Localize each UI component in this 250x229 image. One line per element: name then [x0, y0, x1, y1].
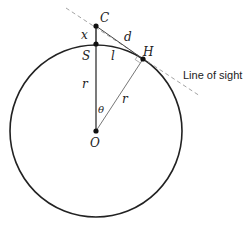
- label-l: l: [111, 49, 115, 63]
- label-C: C: [100, 11, 109, 25]
- label-x: x: [81, 28, 88, 42]
- label-theta: θ: [98, 104, 104, 115]
- label-r-vertical: r: [82, 77, 89, 91]
- horizon-diagram: C x d S l H r θ r O Line of sight: [0, 0, 250, 229]
- label-S: S: [82, 49, 90, 63]
- label-r-slant: r: [122, 92, 129, 106]
- point-S: [93, 41, 98, 46]
- line-of-sight-label: Line of sight: [183, 69, 242, 81]
- point-C: [93, 23, 98, 28]
- label-d: d: [124, 30, 132, 44]
- segment-r-slant: [96, 59, 143, 131]
- label-O: O: [90, 136, 100, 150]
- label-H: H: [142, 45, 154, 59]
- segment-d: [96, 26, 143, 59]
- point-O: [93, 128, 98, 133]
